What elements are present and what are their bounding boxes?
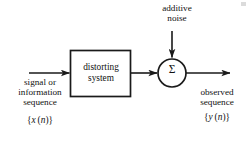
input-sequence-variable: x <box>32 115 36 125</box>
input-signal-label: signal or information sequence <box>2 78 78 107</box>
input-sequence-notation: {x (n)} <box>2 116 78 126</box>
output-signal-label: observed sequence <box>186 88 248 108</box>
output-sequence-variable: y <box>209 112 213 122</box>
output-signal-label-line2: sequence <box>186 98 248 108</box>
output-sequence-notation: {y (n)} <box>186 113 248 123</box>
summing-junction-symbol: Σ <box>158 64 186 76</box>
output-sequence-brace-close: } <box>226 112 231 122</box>
input-signal-label-line3: sequence <box>2 98 78 108</box>
scan-artifact-mark <box>241 2 246 6</box>
input-sequence-brace-close: } <box>49 115 54 125</box>
additive-noise-label: additive noise <box>148 4 206 24</box>
distorting-system-label-line1: distorting <box>72 62 130 73</box>
distorting-system-label: distorting system <box>72 62 130 84</box>
additive-noise-label-line2: noise <box>148 14 206 24</box>
signal-system-block-diagram: Σ distorting system additive noise signa… <box>0 0 250 141</box>
distorting-system-label-line2: system <box>72 73 130 84</box>
